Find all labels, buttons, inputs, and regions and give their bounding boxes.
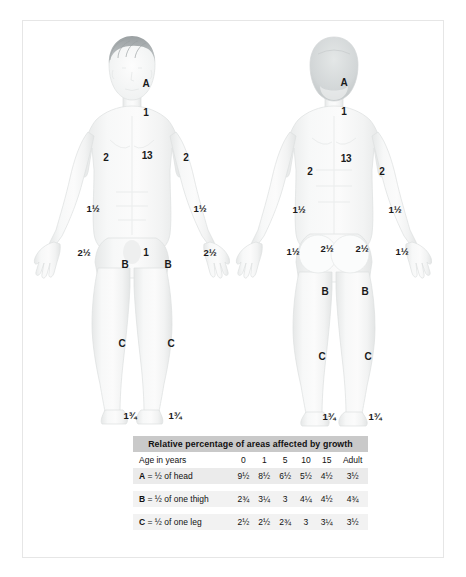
cell-a-adult: 3½	[337, 468, 368, 484]
region-label-ant-head-A: A	[142, 79, 149, 89]
cell-a-10: 5½	[295, 468, 316, 484]
region-label-ant-forearm-right: 1½	[194, 204, 207, 214]
cell-c-15: 3¼	[316, 514, 337, 530]
row-label-b: B = ½ of one thigh	[133, 491, 233, 507]
region-label-ant-genital: 1	[143, 248, 148, 258]
region-label-post-buttock-left: 2½	[321, 244, 334, 254]
cell-c-1: 2½	[254, 514, 275, 530]
anterior-body-figure	[30, 20, 230, 430]
row-key-a: A	[139, 471, 145, 481]
anterior-head	[109, 36, 155, 100]
posterior-head	[310, 37, 358, 101]
row-label-c: C = ½ of one leg	[133, 514, 233, 530]
region-label-post-leg-right-C: C	[364, 352, 371, 362]
cell-c-0: 2½	[233, 514, 254, 530]
region-label-ant-foot-left: 1¾	[124, 411, 137, 421]
column-header-0: 0	[233, 452, 254, 468]
region-label-post-neck: 1	[341, 107, 346, 117]
column-header-10: 10	[295, 452, 316, 468]
region-label-ant-chest-left: 2	[103, 153, 108, 163]
column-header-15: 15	[316, 452, 337, 468]
cell-b-10: 4¼	[295, 491, 316, 507]
table-row: B = ½ of one thigh 2¾ 3¼ 3 4¼ 4½ 4¾	[133, 491, 368, 507]
region-label-post-hand-left: 1½	[287, 247, 300, 257]
table-row-separator	[133, 484, 368, 491]
cell-c-10: 3	[295, 514, 316, 530]
cell-b-15: 4½	[316, 491, 337, 507]
row-key-b: B	[139, 494, 145, 504]
region-label-ant-thigh-left-B: B	[121, 260, 128, 270]
column-header-1: 1	[254, 452, 275, 468]
cell-b-adult: 4¾	[337, 491, 368, 507]
row-label-a: A = ½ of head	[133, 468, 233, 484]
region-label-ant-leg-left-C: C	[118, 339, 125, 349]
region-label-post-buttock-right: 2½	[356, 244, 369, 254]
row-desc-a: = ½ of head	[148, 471, 193, 481]
region-label-ant-foot-right: 1¾	[169, 411, 182, 421]
region-label-post-forearm-right: 1½	[389, 205, 402, 215]
region-label-post-trunk: 13	[341, 154, 352, 164]
table-row-separator	[133, 507, 368, 514]
region-label-ant-hand-left: 2½	[78, 248, 91, 258]
region-label-ant-thigh-right-B: B	[164, 260, 171, 270]
percentage-table: Relative percentage of areas affected by…	[133, 436, 368, 530]
region-label-ant-hand-right: 2½	[204, 248, 217, 258]
region-label-ant-neck: 1	[143, 108, 148, 118]
region-label-ant-trunk: 13	[142, 151, 153, 161]
region-label-post-back-left: 2	[307, 167, 312, 177]
cell-b-1: 3¼	[254, 491, 275, 507]
region-label-ant-chest-right: 2	[183, 153, 188, 163]
column-header-adult: Adult	[337, 452, 368, 468]
table-row: A = ½ of head 9½ 8½ 6½ 5½ 4½ 3½	[133, 468, 368, 484]
cell-c-adult: 3½	[337, 514, 368, 530]
table-row: C = ½ of one leg 2½ 2½ 2¾ 3 3¼ 3½	[133, 514, 368, 530]
region-label-post-thigh-left-B: B	[321, 287, 328, 297]
table-title: Relative percentage of areas affected by…	[133, 436, 368, 452]
region-label-post-back-right: 2	[379, 167, 384, 177]
row-desc-b: = ½ of one thigh	[148, 494, 209, 504]
cell-b-5: 3	[275, 491, 296, 507]
region-label-post-foot-left: 1¾	[323, 412, 336, 422]
chart-page: A121321½1½2½2½1BBCC1¾1¾A121321½1½1½1½2½2…	[0, 0, 466, 577]
region-label-post-leg-left-C: C	[318, 352, 325, 362]
region-label-post-forearm-left: 1½	[293, 205, 306, 215]
region-label-ant-forearm-left: 1½	[87, 204, 100, 214]
cell-b-0: 2¾	[233, 491, 254, 507]
region-label-post-foot-right: 1¾	[369, 412, 382, 422]
cell-a-15: 4½	[316, 468, 337, 484]
region-label-post-head-A: A	[340, 78, 347, 88]
column-header-5: 5	[275, 452, 296, 468]
row-desc-c: = ½ of one leg	[148, 517, 202, 527]
cell-a-1: 8½	[254, 468, 275, 484]
percentage-table-container: Relative percentage of areas affected by…	[133, 436, 368, 530]
column-header-age: Age in years	[133, 452, 233, 468]
cell-a-5: 6½	[275, 468, 296, 484]
cell-c-5: 2¾	[275, 514, 296, 530]
region-label-ant-leg-right-C: C	[167, 339, 174, 349]
body-figures-container: A121321½1½2½2½1BBCC1¾1¾A121321½1½1½1½2½2…	[22, 20, 444, 430]
region-label-post-hand-right: 1½	[396, 247, 409, 257]
region-label-post-thigh-right-B: B	[361, 287, 368, 297]
posterior-body-figure	[232, 20, 432, 430]
row-key-c: C	[139, 517, 145, 527]
table-header-row: Age in years 0 1 5 10 15 Adult	[133, 452, 368, 468]
cell-a-0: 9½	[233, 468, 254, 484]
